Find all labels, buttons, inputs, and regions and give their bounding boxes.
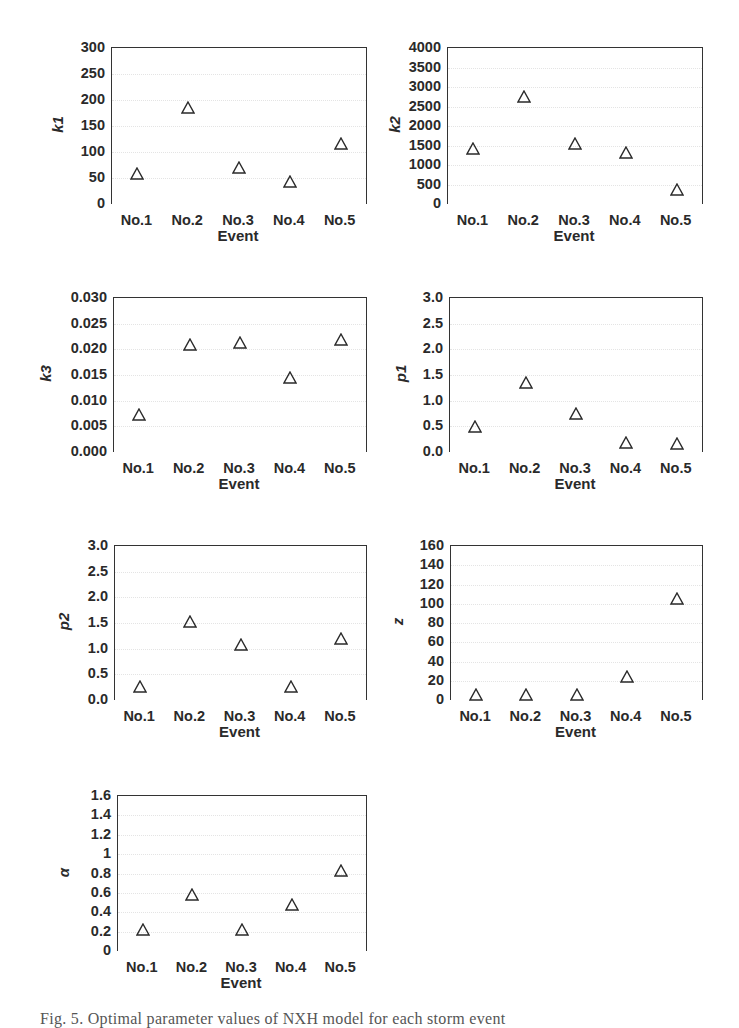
- y-tick-label: 2.0: [373, 341, 443, 355]
- y-tick-label: 0.010: [37, 393, 107, 407]
- y-tick-label: 200: [35, 92, 105, 106]
- y-tick-label: 120: [374, 577, 444, 591]
- y-tick-label: 1: [41, 846, 111, 860]
- y-axis-label: p2: [55, 607, 72, 637]
- y-tick-label: 0.025: [37, 316, 107, 330]
- y-tick-label: 0.6: [41, 885, 111, 899]
- gridline: [114, 426, 366, 427]
- x-tick-label: No.2: [164, 460, 214, 476]
- y-tick-label: 1.6: [41, 788, 111, 802]
- x-tick-label: No.2: [162, 212, 212, 228]
- gridline: [448, 68, 702, 69]
- triangle-marker-icon: [283, 175, 297, 188]
- y-tick-label: 2.5: [373, 316, 443, 330]
- y-tick-label: 2500: [371, 99, 441, 113]
- plot-area-z: [450, 545, 703, 700]
- x-axis-label: Event: [449, 475, 701, 492]
- gridline: [115, 674, 366, 675]
- y-tick-label: 0.4: [41, 904, 111, 918]
- y-tick-label: 300: [35, 40, 105, 54]
- x-tick-label: No.2: [498, 212, 548, 228]
- y-tick-label: 140: [374, 557, 444, 571]
- y-axis-label: p1: [392, 359, 409, 389]
- triangle-marker-icon: [619, 436, 633, 449]
- x-axis-label: Event: [111, 227, 365, 244]
- y-tick-label: 250: [35, 66, 105, 80]
- x-tick-label: No.1: [117, 959, 167, 975]
- gridline: [450, 349, 702, 350]
- triangle-marker-icon: [620, 670, 634, 683]
- y-tick-label: 1000: [371, 157, 441, 171]
- triangle-marker-icon: [130, 167, 144, 180]
- x-axis-label: Event: [117, 974, 365, 991]
- y-tick-label: 60: [374, 634, 444, 648]
- y-tick-label: 0.005: [37, 418, 107, 432]
- gridline: [451, 623, 702, 624]
- triangle-marker-icon: [334, 137, 348, 150]
- x-tick-label: No.1: [450, 708, 500, 724]
- gridline: [114, 401, 366, 402]
- y-tick-label: 1.2: [41, 827, 111, 841]
- y-tick-label: 0.0: [38, 692, 108, 706]
- triangle-marker-icon: [519, 688, 533, 701]
- y-tick-label: 2000: [371, 118, 441, 132]
- y-tick-label: 160: [374, 538, 444, 552]
- y-tick-label: 0.5: [38, 666, 108, 680]
- gridline: [450, 375, 702, 376]
- y-tick-label: 40: [374, 654, 444, 668]
- y-tick-label: 3500: [371, 60, 441, 74]
- x-tick-label: No.3: [549, 212, 599, 228]
- gridline: [118, 854, 366, 855]
- triangle-marker-icon: [284, 680, 298, 693]
- gridline: [451, 565, 702, 566]
- x-tick-label: No.4: [600, 212, 650, 228]
- y-tick-label: 100: [374, 596, 444, 610]
- x-tick-label: No.1: [449, 460, 499, 476]
- y-tick-label: 0.000: [37, 444, 107, 458]
- triangle-marker-icon: [136, 923, 150, 936]
- y-tick-label: 0: [35, 196, 105, 210]
- gridline: [114, 349, 366, 350]
- plot-area-k3: [113, 297, 367, 452]
- triangle-marker-icon: [232, 161, 246, 174]
- gridline: [112, 74, 366, 75]
- x-axis-label: Event: [113, 475, 365, 492]
- x-tick-label: No.2: [500, 708, 550, 724]
- triangle-marker-icon: [234, 638, 248, 651]
- gridline: [118, 835, 366, 836]
- gridline: [118, 815, 366, 816]
- y-tick-label: 3.0: [373, 290, 443, 304]
- plot-area-k1: [111, 47, 367, 204]
- triangle-marker-icon: [519, 376, 533, 389]
- y-axis-label: k1: [49, 110, 66, 140]
- y-tick-label: 0.020: [37, 341, 107, 355]
- y-tick-label: 0: [374, 692, 444, 706]
- y-tick-label: 1.0: [38, 641, 108, 655]
- x-tick-label: No.4: [265, 708, 315, 724]
- gridline: [115, 572, 366, 573]
- x-tick-label: No.1: [113, 460, 163, 476]
- x-tick-label: No.1: [114, 708, 164, 724]
- gridline: [451, 585, 702, 586]
- gridline: [450, 426, 702, 427]
- y-axis-label: k3: [37, 359, 54, 389]
- triangle-marker-icon: [133, 680, 147, 693]
- y-tick-label: 100: [35, 144, 105, 158]
- gridline: [112, 126, 366, 127]
- y-tick-label: 80: [374, 615, 444, 629]
- y-axis-label: z: [389, 607, 406, 637]
- y-tick-label: 0: [371, 196, 441, 210]
- y-axis-label: k2: [386, 110, 403, 140]
- x-tick-label: No.2: [500, 460, 550, 476]
- x-tick-label: No.4: [600, 460, 650, 476]
- triangle-marker-icon: [670, 592, 684, 605]
- y-tick-label: 2.0: [38, 589, 108, 603]
- y-tick-label: 500: [371, 177, 441, 191]
- x-tick-label: No.2: [164, 708, 214, 724]
- plot-area-alpha: [117, 795, 367, 951]
- x-tick-label: No.3: [213, 212, 263, 228]
- x-tick-label: No.3: [551, 708, 601, 724]
- gridline: [450, 401, 702, 402]
- x-tick-label: No.3: [216, 959, 266, 975]
- y-tick-label: 3000: [371, 79, 441, 93]
